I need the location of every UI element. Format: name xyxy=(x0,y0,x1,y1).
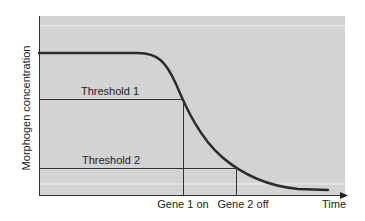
threshold-1-label: Threshold 1 xyxy=(81,85,139,97)
x-axis-label: Time xyxy=(322,198,346,210)
gene-2-label: Gene 2 off xyxy=(217,198,269,210)
threshold-2-label: Threshold 2 xyxy=(82,154,140,166)
y-axis-label: Morphogen concentration xyxy=(20,46,32,171)
gene-1-label: Gene 1 on xyxy=(157,198,208,210)
morphogen-threshold-diagram: Threshold 1 Threshold 2 Gene 1 on Gene 2… xyxy=(0,0,365,221)
